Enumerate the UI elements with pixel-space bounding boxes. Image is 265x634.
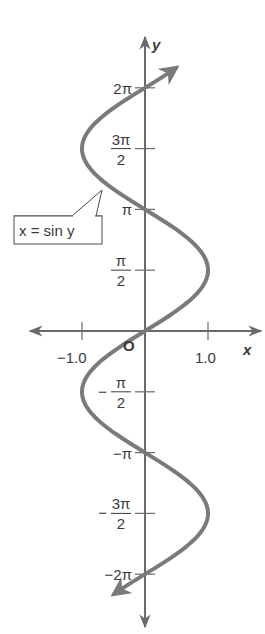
- svg-text:−: −: [98, 504, 107, 521]
- y-tick-label: −2π: [105, 566, 132, 583]
- x-tick-label-1: 1.0: [195, 349, 216, 366]
- x-tick-label-neg1: −1.0: [57, 349, 87, 366]
- y-tick-label: π2: [111, 252, 131, 289]
- svg-text:2: 2: [117, 515, 125, 532]
- y-tick-label: 2π: [113, 80, 132, 97]
- svg-text:−: −: [98, 383, 107, 400]
- y-tick-label: 3π2−: [98, 495, 131, 532]
- svg-text:π: π: [116, 374, 126, 391]
- x-axis-label: x: [242, 341, 252, 358]
- svg-text:3π: 3π: [112, 495, 131, 512]
- svg-text:π: π: [116, 252, 126, 269]
- svg-text:3π: 3π: [112, 131, 131, 148]
- svg-text:2: 2: [117, 272, 125, 289]
- svg-text:2: 2: [117, 151, 125, 168]
- svg-text:2π: 2π: [113, 80, 132, 97]
- svg-text:2: 2: [117, 394, 125, 411]
- equation-label: x = sin y: [19, 222, 75, 239]
- svg-text:−2π: −2π: [105, 566, 132, 583]
- svg-text:π: π: [122, 201, 132, 218]
- equation-callout: x = sin y: [14, 190, 102, 244]
- y-tick-label: −π: [113, 445, 132, 462]
- chart: y x O −1.0 1.0 2π3π2ππ2π2−−π3π2−−2π x = …: [0, 0, 265, 634]
- y-tick-label: 3π2: [111, 131, 131, 168]
- y-axis-label: y: [151, 36, 161, 53]
- svg-text:−π: −π: [113, 445, 132, 462]
- origin-label: O: [123, 337, 135, 354]
- y-tick-label: π2−: [98, 374, 131, 411]
- y-tick-label: π: [122, 201, 132, 218]
